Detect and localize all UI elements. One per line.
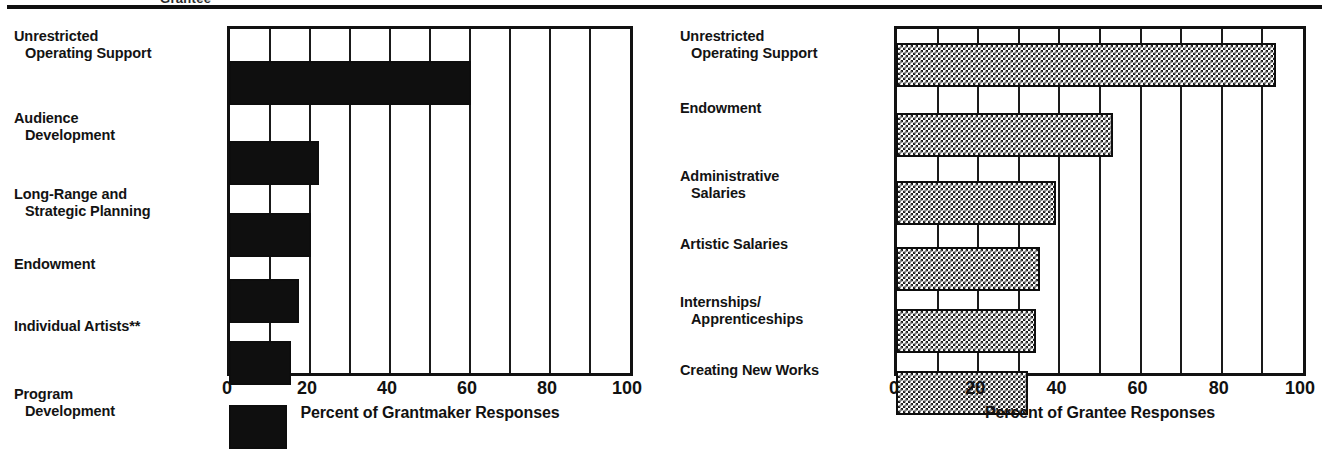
x-tick-label: 40 [1046, 378, 1066, 399]
x-axis-ticks-grantee: 020406080100 [894, 378, 1306, 400]
cropped-figure-title: Grantee [160, 0, 580, 3]
category-label-line2: Strategic Planning [14, 203, 224, 220]
gridline [509, 29, 511, 373]
category-label-line2: Development [14, 403, 224, 420]
category-label-line1: Artistic Salaries [680, 236, 788, 252]
category-label-line1: Endowment [14, 256, 95, 272]
bar [229, 141, 319, 185]
category-labels-grantee: UnrestrictedOperating SupportEndowmentAd… [680, 18, 880, 376]
plot-area-grantee [894, 26, 1306, 376]
bar [896, 181, 1056, 225]
x-tick-label: 0 [222, 378, 232, 399]
category-label: Individual Artists** [14, 318, 224, 335]
x-tick-label: 40 [377, 378, 397, 399]
x-tick-label: 60 [1128, 378, 1148, 399]
category-label: AdministrativeSalaries [680, 168, 890, 201]
x-axis-label-grantee: Percent of Grantee Responses [894, 404, 1306, 422]
category-label: AudienceDevelopment [14, 110, 224, 143]
figure-top-rule [7, 5, 1322, 9]
x-axis-ticks-grantmaker: 020406080100 [227, 378, 633, 400]
category-label-line1: Unrestricted [680, 28, 764, 44]
category-label-line1: Creating New Works [680, 362, 819, 378]
x-tick-label: 0 [889, 378, 899, 399]
category-label-line2: Salaries [680, 185, 890, 202]
chart-panel-grantmaker: UnrestrictedOperating SupportAudienceDev… [0, 18, 663, 443]
chart-panel-grantee: UnrestrictedOperating SupportEndowmentAd… [663, 18, 1327, 443]
bar [896, 43, 1276, 87]
bar [229, 61, 471, 105]
bar [896, 247, 1040, 291]
x-tick-label: 60 [457, 378, 477, 399]
x-tick-label: 80 [1209, 378, 1229, 399]
category-label: Internships/Apprenticeships [680, 294, 890, 327]
x-tick-label: 100 [1285, 378, 1315, 399]
category-label-line1: Endowment [680, 100, 761, 116]
category-label-line1: Unrestricted [14, 28, 98, 44]
category-label-line2: Apprenticeships [680, 311, 890, 328]
category-label: Endowment [680, 100, 890, 117]
gridline [549, 29, 551, 373]
bar [229, 213, 311, 257]
bar [229, 279, 299, 323]
category-label-line1: Program [14, 386, 73, 402]
category-label-line2: Operating Support [14, 45, 224, 62]
bar [896, 309, 1036, 353]
category-label-line1: Administrative [680, 168, 779, 184]
category-label: Endowment [14, 256, 224, 273]
category-label: UnrestrictedOperating Support [14, 28, 224, 61]
x-axis-label-grantmaker: Percent of Grantmaker Responses [227, 404, 633, 422]
x-tick-label: 80 [537, 378, 557, 399]
category-label-line1: Individual Artists** [14, 318, 140, 334]
category-label-line2: Operating Support [680, 45, 890, 62]
category-label-line1: Long-Range and [14, 186, 127, 202]
x-tick-label: 20 [297, 378, 317, 399]
category-label: Creating New Works [680, 362, 890, 379]
bar [896, 113, 1113, 157]
category-label: Artistic Salaries [680, 236, 890, 253]
category-label: Long-Range andStrategic Planning [14, 186, 224, 219]
plot-area-grantmaker [227, 26, 633, 376]
x-tick-label: 100 [612, 378, 642, 399]
category-label: ProgramDevelopment [14, 386, 224, 419]
category-label-line1: Audience [14, 110, 78, 126]
category-label-line1: Internships/ [680, 294, 761, 310]
x-tick-label: 20 [965, 378, 985, 399]
category-labels-grantmaker: UnrestrictedOperating SupportAudienceDev… [14, 18, 214, 376]
category-label: UnrestrictedOperating Support [680, 28, 890, 61]
gridline [589, 29, 591, 373]
category-label-line2: Development [14, 127, 224, 144]
